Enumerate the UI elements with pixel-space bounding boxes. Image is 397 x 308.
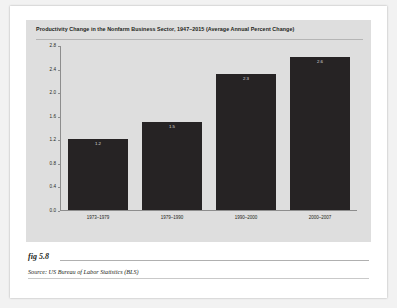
chart-title: Productivity Change in the Nonfarm Busin… bbox=[36, 27, 363, 33]
x-axis-category-label: 2000–2007 bbox=[283, 216, 357, 221]
bar[interactable]: 1.2 bbox=[68, 139, 128, 210]
y-axis-tick-mark bbox=[58, 46, 61, 47]
x-axis-category-label: 1979–1990 bbox=[135, 216, 209, 221]
bar-value-label: 1.5 bbox=[142, 125, 202, 129]
y-axis-tick-mark bbox=[58, 211, 61, 212]
bar-slot: 2.6 bbox=[283, 46, 357, 210]
y-axis-tick-mark bbox=[58, 140, 61, 141]
y-axis-tick-mark bbox=[58, 117, 61, 118]
bar-value-label: 2.3 bbox=[216, 77, 276, 81]
y-axis-tick-label: 0.0 bbox=[38, 209, 56, 214]
bar-slot: 1.2 bbox=[61, 46, 135, 210]
bar-value-label: 2.6 bbox=[290, 60, 350, 64]
bar[interactable]: 1.5 bbox=[142, 122, 202, 210]
page-sheet: Productivity Change in the Nonfarm Busin… bbox=[10, 6, 387, 298]
bar[interactable]: 2.6 bbox=[290, 57, 350, 210]
y-axis-tick-label: 1.2 bbox=[38, 138, 56, 143]
bar-value-label: 1.2 bbox=[68, 142, 128, 146]
x-axis-labels: 1973–19791979–19901990–20002000–2007 bbox=[61, 216, 357, 221]
source-divider bbox=[28, 278, 369, 279]
title-divider bbox=[36, 39, 363, 40]
y-axis-tick-mark bbox=[58, 93, 61, 94]
y-axis-tick-mark bbox=[58, 187, 61, 188]
y-axis-tick-label: 1.6 bbox=[38, 114, 56, 119]
y-axis-tick-label: 0.8 bbox=[38, 162, 56, 167]
x-axis-line bbox=[60, 210, 357, 211]
bar-series: 1.21.52.32.6 bbox=[61, 46, 357, 210]
plot-area: 0.00.40.81.21.62.02.42.8 1.21.52.32.6 bbox=[60, 46, 357, 211]
y-axis-tick-mark bbox=[58, 164, 61, 165]
x-axis-category-label: 1973–1979 bbox=[61, 216, 135, 221]
chart-panel: Productivity Change in the Nonfarm Busin… bbox=[26, 20, 371, 242]
x-axis-category-label: 1990–2000 bbox=[209, 216, 283, 221]
bar[interactable]: 2.3 bbox=[216, 74, 276, 210]
bar-slot: 1.5 bbox=[135, 46, 209, 210]
caption-divider bbox=[60, 260, 369, 261]
bar-slot: 2.3 bbox=[209, 46, 283, 210]
y-axis-tick-label: 2.8 bbox=[38, 44, 56, 49]
source-note: Source: US Bureau of Labor Statistics (B… bbox=[28, 268, 139, 275]
y-axis-tick-label: 2.4 bbox=[38, 67, 56, 72]
y-axis-tick-label: 2.0 bbox=[38, 91, 56, 96]
figure-number: fig 5.8 bbox=[28, 252, 49, 261]
y-axis-tick-mark bbox=[58, 70, 61, 71]
y-axis-tick-label: 0.4 bbox=[38, 185, 56, 190]
figure-block: Productivity Change in the Nonfarm Busin… bbox=[26, 20, 371, 282]
